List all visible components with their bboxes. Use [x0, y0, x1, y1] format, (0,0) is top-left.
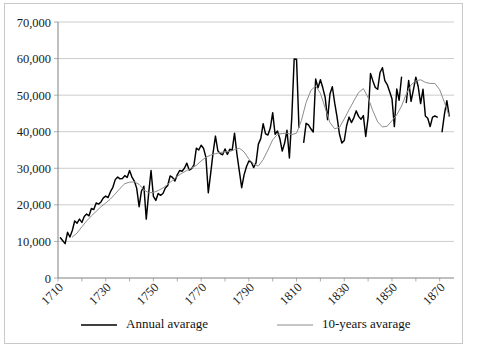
- y-tick-label-10000: 10,000: [17, 235, 51, 249]
- y-tick-label-0: 0: [45, 272, 51, 286]
- legend-label-1: 10-years avarage: [322, 316, 411, 331]
- x-tick-label-1810: 1810: [277, 280, 305, 308]
- y-tick-label-20000: 20,000: [17, 198, 51, 212]
- gridlines-group: [58, 22, 454, 241]
- y-tick-label-40000: 40,000: [17, 125, 51, 139]
- x-tick-label-1770: 1770: [182, 280, 210, 308]
- y-tick-label-50000: 50,000: [17, 89, 51, 103]
- x-tick-label-1790: 1790: [229, 280, 257, 308]
- y-tick-label-30000: 30,000: [17, 162, 51, 176]
- x-axis-ticks-group: 171017301750177017901810183018501870: [39, 278, 448, 308]
- legend-label-0: Annual avarage: [126, 316, 208, 331]
- x-tick-label-1850: 1850: [373, 280, 401, 308]
- line-chart: 010,00020,00030,00040,00050,00060,00070,…: [5, 4, 462, 343]
- x-tick-label-1870: 1870: [420, 280, 448, 308]
- series-line-annual-seg0: [60, 59, 299, 244]
- x-tick-label-1710: 1710: [39, 280, 67, 308]
- chart-legend: Annual avarage10-years avarage: [81, 316, 411, 331]
- chart-frame: 010,00020,00030,00040,00050,00060,00070,…: [4, 3, 463, 344]
- y-tick-label-70000: 70,000: [17, 16, 51, 30]
- y-axis-ticks-group: 010,00020,00030,00040,00050,00060,00070,…: [17, 16, 58, 286]
- data-series-group: [60, 59, 449, 244]
- x-tick-label-1750: 1750: [134, 280, 162, 308]
- x-tick-label-1830: 1830: [325, 280, 353, 308]
- y-tick-label-60000: 60,000: [17, 52, 51, 66]
- x-tick-label-1730: 1730: [86, 280, 114, 308]
